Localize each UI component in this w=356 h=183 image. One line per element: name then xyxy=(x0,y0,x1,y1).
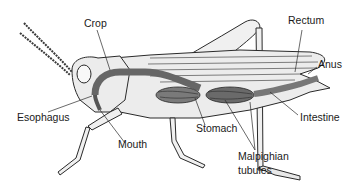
grasshopper-illustration xyxy=(0,0,356,183)
label-crop: Crop xyxy=(84,17,107,29)
grasshopper-diagram: Crop Rectum Anus Esophagus Mouth Stomach… xyxy=(0,0,356,183)
label-stomach: Stomach xyxy=(196,122,237,134)
label-mouth: Mouth xyxy=(118,138,147,150)
antennae xyxy=(20,23,72,75)
label-malpighian-line1: Malpighian xyxy=(238,150,289,162)
label-anus: Anus xyxy=(318,58,342,70)
label-esophagus: Esophagus xyxy=(17,111,70,123)
label-rectum: Rectum xyxy=(288,14,324,26)
label-intestine: Intestine xyxy=(300,111,340,123)
label-malpighian-line2: tubules xyxy=(238,164,272,176)
